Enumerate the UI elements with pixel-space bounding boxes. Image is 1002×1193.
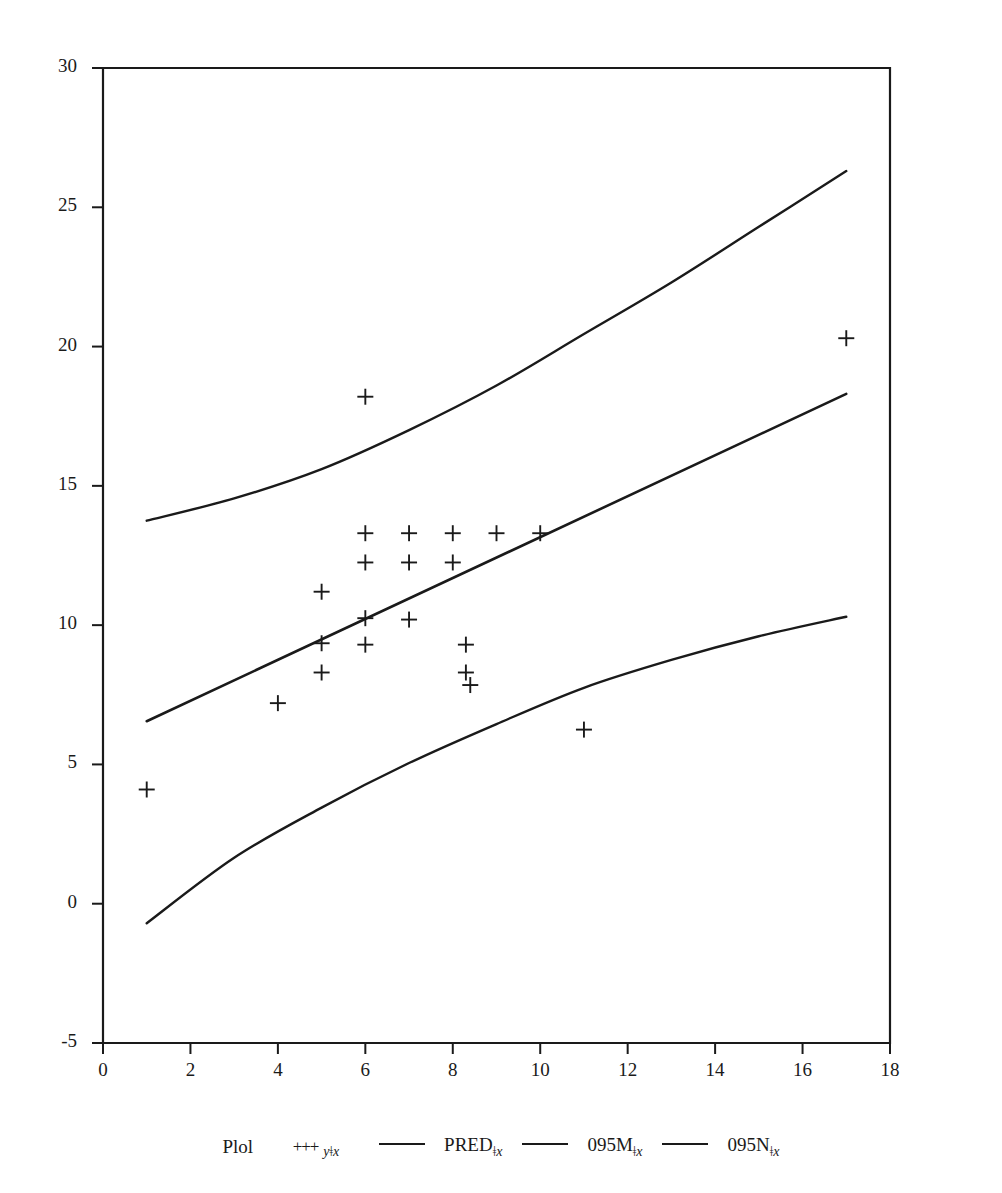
y-tick-label: 30 <box>35 55 77 77</box>
legend-entry-pred: PREDǂx <box>444 1134 502 1160</box>
y-tick-label: 5 <box>35 751 77 773</box>
y-tick-label: -5 <box>35 1030 77 1052</box>
y-tick-label: 0 <box>35 891 77 913</box>
legend-entry-y: yǂx <box>323 1134 339 1160</box>
legend-line-095m <box>522 1143 568 1145</box>
legend-entry-095m: 095Mǂx <box>587 1134 642 1160</box>
x-tick-label: 8 <box>433 1059 473 1081</box>
legend-title: Plol <box>223 1136 254 1158</box>
y-tick-label: 15 <box>35 473 77 495</box>
legend-line-pred <box>379 1143 425 1145</box>
x-tick-label: 18 <box>870 1059 910 1081</box>
legend-line-095n <box>662 1143 708 1145</box>
legend-marker-points: +++ <box>293 1137 319 1157</box>
plot-legend: Plol +++ yǂx PREDǂx 095Mǂx 095Nǂx <box>0 1134 1002 1160</box>
figure-background <box>0 0 1002 1193</box>
x-tick-label: 0 <box>83 1059 123 1081</box>
x-tick-label: 4 <box>258 1059 298 1081</box>
x-tick-label: 2 <box>170 1059 210 1081</box>
x-tick-label: 6 <box>345 1059 385 1081</box>
scatter-plot-figure <box>0 0 1002 1193</box>
y-tick-label: 10 <box>35 612 77 634</box>
x-tick-label: 10 <box>520 1059 560 1081</box>
y-tick-label: 25 <box>35 194 77 216</box>
y-tick-label: 20 <box>35 334 77 356</box>
x-tick-label: 14 <box>695 1059 735 1081</box>
legend-entry-095n: 095Nǂx <box>728 1134 780 1160</box>
x-tick-label: 12 <box>608 1059 648 1081</box>
x-tick-label: 16 <box>783 1059 823 1081</box>
